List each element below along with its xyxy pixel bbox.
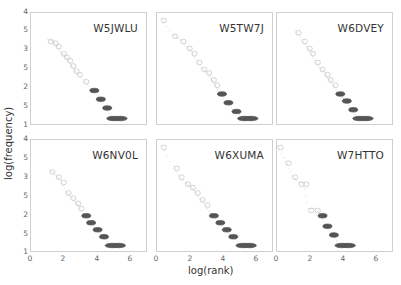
data-point: [318, 214, 327, 218]
data-point: [328, 78, 333, 83]
data-point: [161, 145, 166, 150]
data-point: [56, 175, 61, 180]
data-point: [342, 99, 351, 103]
y-tick: 2: [18, 210, 28, 219]
data-point: [307, 46, 312, 51]
data-point: [68, 58, 73, 63]
data-point: [113, 116, 127, 120]
x-tick: 4: [217, 254, 229, 263]
x-tick: 6: [124, 254, 136, 263]
data-point: [211, 78, 216, 83]
data-point: [187, 46, 192, 51]
data-point: [103, 106, 112, 110]
data-point: [205, 203, 210, 208]
panel-title: W6NV0L: [92, 149, 138, 161]
data-point: [242, 243, 256, 247]
data-point: [173, 34, 178, 39]
y-tick: 5: [18, 63, 28, 72]
panel-title: W6DVEY: [338, 22, 384, 34]
data-point: [112, 243, 126, 247]
data-point: [90, 88, 99, 92]
data-point: [209, 214, 218, 218]
data-point: [217, 92, 226, 96]
data-point: [50, 170, 55, 175]
data-point: [100, 235, 109, 239]
x-tick: 0: [24, 254, 36, 263]
data-point: [329, 233, 338, 237]
data-point: [304, 182, 309, 187]
panel-w6dvey: W6DVEY: [276, 12, 393, 125]
x-axis-label: log(rank): [188, 265, 233, 276]
y-tick: 2: [18, 82, 28, 91]
x-tick: 6: [370, 254, 382, 263]
data-point: [71, 196, 76, 201]
y-tick: 1: [18, 120, 28, 129]
panel-w5jwlu: W5JWLU: [30, 12, 147, 125]
data-point: [76, 201, 81, 206]
data-point: [349, 108, 358, 112]
data-point: [320, 67, 325, 72]
x-tick: 2: [57, 254, 69, 263]
panel-title: W5JWLU: [93, 22, 138, 34]
panel-title: W5TW7J: [219, 22, 264, 34]
y-tick: 5: [18, 101, 28, 110]
data-point: [224, 101, 233, 105]
data-point: [278, 145, 283, 150]
data-point: [61, 180, 66, 185]
data-point: [71, 64, 76, 69]
panel-w6nv0l: W6NV0L: [30, 139, 147, 252]
x-tick: 0: [270, 254, 282, 263]
panel-w7htto: W7HTTO: [276, 139, 393, 252]
x-tick: 2: [304, 254, 316, 263]
panel-w6xuma: W6XUMA: [156, 139, 273, 252]
panel-title: W6XUMA: [215, 149, 264, 161]
y-tick: 5: [18, 191, 28, 200]
y-tick: 5: [18, 25, 28, 34]
data-point: [244, 116, 258, 120]
y-tick: 4: [18, 7, 28, 16]
x-tick: 4: [337, 254, 349, 263]
data-point: [96, 97, 105, 101]
data-point: [185, 182, 190, 187]
data-point: [82, 214, 91, 218]
data-point: [222, 228, 231, 232]
data-point: [87, 221, 96, 225]
data-point: [341, 243, 355, 247]
y-tick: 5: [18, 229, 28, 238]
x-tick: 2: [184, 254, 196, 263]
data-point: [232, 109, 241, 113]
panel-title: W7HTTO: [337, 149, 384, 161]
data-point: [93, 228, 102, 232]
data-point: [190, 185, 195, 190]
x-tick: 4: [91, 254, 103, 263]
data-point: [299, 182, 304, 187]
panel-w5tw7j: W5TW7J: [156, 12, 273, 125]
y-tick: 3: [18, 44, 28, 53]
data-point: [200, 198, 205, 203]
y-tick: 5: [18, 153, 28, 162]
data-point: [286, 161, 291, 166]
data-point: [336, 92, 345, 96]
data-point: [325, 72, 330, 77]
data-point: [229, 235, 238, 239]
data-point: [315, 208, 320, 213]
data-point: [66, 191, 71, 196]
y-tick: 3: [18, 172, 28, 181]
x-tick: 6: [250, 254, 262, 263]
data-point: [84, 79, 89, 84]
y-tick: 4: [18, 134, 28, 143]
data-point: [323, 224, 332, 228]
x-tick: 0: [150, 254, 162, 263]
data-point: [202, 67, 207, 72]
data-point: [216, 221, 225, 225]
data-point: [359, 116, 373, 120]
y-axis-label: log(frequency): [3, 107, 14, 180]
